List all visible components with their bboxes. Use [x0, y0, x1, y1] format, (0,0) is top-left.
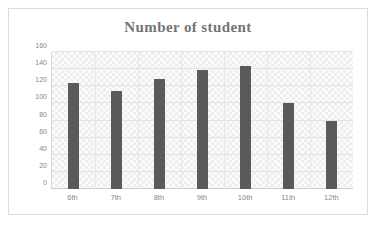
y-tick-label-160: 160 — [35, 42, 47, 49]
y-tick-label-20: 20 — [39, 161, 47, 168]
x-tick-label-12th: 12th — [310, 193, 353, 202]
plot-area: 020406080100120140160 — [51, 52, 353, 189]
bar-cell — [224, 52, 267, 189]
x-tick-label-8th: 8th — [137, 193, 180, 202]
bar-cell — [181, 52, 224, 189]
x-tick-label-7th: 7th — [94, 193, 137, 202]
bar-cell — [95, 52, 138, 189]
x-tick-label-11th: 11th — [267, 193, 310, 202]
bar-10th[interactable] — [240, 66, 251, 189]
bar-6th[interactable] — [68, 83, 79, 189]
bar-12th[interactable] — [326, 121, 337, 190]
y-tick-label-120: 120 — [35, 76, 47, 83]
y-tick-label-0: 0 — [43, 179, 47, 186]
bar-8th[interactable] — [154, 79, 165, 189]
bar-11th[interactable] — [283, 103, 294, 189]
y-tick-label-60: 60 — [39, 127, 47, 134]
x-axis-tick-labels: 6th7th8th9th10th11th12th — [51, 193, 353, 202]
x-tick-label-6th: 6th — [51, 193, 94, 202]
bar-9th[interactable] — [197, 70, 208, 189]
bar-cell — [52, 52, 95, 189]
bar-7th[interactable] — [111, 91, 122, 189]
y-tick-label-100: 100 — [35, 93, 47, 100]
chart-frame: Number of student 020406080100120140160 … — [8, 8, 368, 215]
plot-wrapper: 020406080100120140160 — [51, 52, 353, 189]
x-tick-label-9th: 9th — [180, 193, 223, 202]
y-tick-label-80: 80 — [39, 110, 47, 117]
bar-series — [52, 52, 353, 189]
bar-cell — [138, 52, 181, 189]
chart-title: Number of student — [9, 19, 367, 36]
bar-cell — [267, 52, 310, 189]
y-tick-label-40: 40 — [39, 144, 47, 151]
y-tick-label-140: 140 — [35, 59, 47, 66]
x-tick-label-10th: 10th — [224, 193, 267, 202]
bar-cell — [310, 52, 353, 189]
